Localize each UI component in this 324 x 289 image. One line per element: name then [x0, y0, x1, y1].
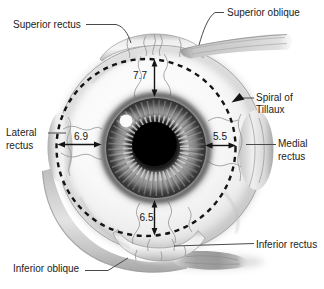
measurement-superior: 7.7: [133, 70, 147, 81]
measurement-medial: 5.5: [213, 131, 227, 142]
leader-superior-oblique: [199, 13, 224, 46]
eye-anatomy-diagram: 7.7 6.9 5.5 6.5 Superior rectus Superior…: [0, 0, 324, 289]
medial-rectus-label-line2: rectus: [278, 151, 305, 162]
measurement-lateral: 6.9: [74, 131, 88, 142]
diagram-canvas: 7.7 6.9 5.5 6.5 Superior rectus Superior…: [0, 0, 324, 289]
spiral-of-tillaux-label-line1: Spiral of: [256, 92, 293, 103]
pupil: [132, 122, 177, 167]
lateral-rectus-label-line2: rectus: [6, 140, 33, 151]
superior-oblique-muscle: [180, 34, 292, 59]
superior-oblique-label: Superior oblique: [227, 7, 300, 18]
inferior-rectus-label: Inferior rectus: [256, 239, 317, 250]
measurement-inferior: 6.5: [140, 212, 154, 223]
spiral-of-tillaux-label-line2: Tillaux: [256, 104, 285, 115]
inferior-oblique-label: Inferior oblique: [13, 263, 80, 274]
specular-highlight: [120, 114, 133, 127]
lateral-rectus-label-line1: Lateral: [6, 127, 37, 138]
medial-rectus-label-line1: Medial: [278, 138, 307, 149]
iris: [100, 92, 212, 204]
superior-rectus-label: Superior rectus: [13, 19, 81, 30]
